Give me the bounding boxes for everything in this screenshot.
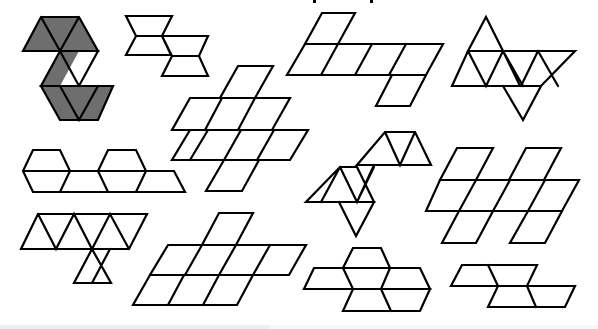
net-7 bbox=[306, 132, 431, 236]
net-3 bbox=[172, 66, 308, 191]
net-12 bbox=[451, 265, 575, 307]
net-1 bbox=[23, 17, 113, 120]
net-2 bbox=[126, 16, 208, 76]
net-6 bbox=[23, 150, 185, 192]
net-9 bbox=[21, 214, 147, 283]
bottom-bar bbox=[270, 325, 598, 329]
nets-diagram bbox=[0, 0, 598, 329]
net-8 bbox=[426, 148, 579, 243]
net-4 bbox=[287, 13, 443, 106]
net-10 bbox=[133, 213, 306, 305]
net-11 bbox=[304, 248, 430, 311]
bottom-bar bbox=[0, 325, 270, 329]
net-5 bbox=[452, 17, 575, 120]
